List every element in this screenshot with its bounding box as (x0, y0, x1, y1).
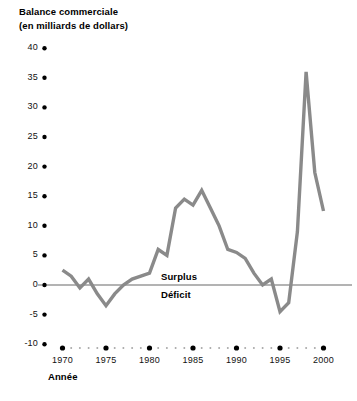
y-axis-tick-label: 0 (12, 279, 38, 289)
surplus-label: Surplus (160, 271, 198, 282)
x-axis-minor-tick-dot (270, 347, 272, 349)
x-axis-minor-tick-dot (218, 347, 220, 349)
x-axis-minor-tick-dot (183, 347, 185, 349)
x-axis-tick-dot (277, 345, 282, 350)
y-axis-tick-label: 10 (12, 220, 38, 230)
x-axis-caption: Année (48, 371, 78, 382)
x-axis-minor-tick-dot (201, 347, 203, 349)
y-axis-tick-dot (42, 194, 46, 198)
y-axis-tick-label: -5 (12, 309, 38, 319)
x-axis-tick-label: 1990 (220, 355, 254, 365)
y-axis-tick-dot (42, 283, 46, 287)
deficit-label: Déficit (160, 289, 192, 300)
x-axis-minor-tick-dot (157, 347, 159, 349)
x-axis-tick-dot (147, 345, 152, 350)
x-axis-minor-tick-dot (166, 347, 168, 349)
x-axis-tick-dot (321, 345, 326, 350)
y-axis-tick-dot (42, 105, 46, 109)
x-axis-minor-tick-dot (79, 347, 81, 349)
x-axis-minor-tick-dot (70, 347, 72, 349)
x-axis-tick-label: 1985 (176, 355, 210, 365)
x-axis-minor-tick-dot (209, 347, 211, 349)
x-axis-minor-tick-dot (96, 347, 98, 349)
x-axis-tick-label: 1980 (133, 355, 167, 365)
x-axis-tick-dot (60, 345, 65, 350)
y-axis-tick-dot (42, 342, 46, 346)
x-axis-minor-tick-dot (175, 347, 177, 349)
x-axis-minor-tick-dot (244, 347, 246, 349)
y-axis-tick-dot (42, 224, 46, 228)
x-axis-tick-dot (234, 345, 239, 350)
x-axis-minor-tick-dot (296, 347, 298, 349)
y-axis-tick-dot (42, 46, 46, 50)
y-axis-tick-label: 40 (12, 42, 38, 52)
x-axis-minor-tick-dot (131, 347, 133, 349)
y-axis-tick-label: 35 (12, 72, 38, 82)
y-axis-tick-dot (42, 76, 46, 80)
x-axis-minor-tick-dot (262, 347, 264, 349)
y-axis-tick-dot (42, 135, 46, 139)
y-axis-tick-label: 30 (12, 101, 38, 111)
x-axis-minor-tick-dot (88, 347, 90, 349)
x-axis-tick-dot (190, 345, 195, 350)
y-axis-tick-label: 5 (12, 249, 38, 259)
x-axis-minor-tick-dot (227, 347, 229, 349)
x-axis-tick-label: 1970 (46, 355, 80, 365)
x-axis-minor-tick-dot (314, 347, 316, 349)
y-axis-tick-label: 15 (12, 190, 38, 200)
y-axis-tick-label: -10 (12, 338, 38, 348)
x-axis-minor-tick-dot (305, 347, 307, 349)
y-axis-tick-dot (42, 253, 46, 257)
chart-container: Balance commerciale (en milliards de dol… (0, 0, 357, 401)
x-axis-tick-label: 2000 (307, 355, 341, 365)
x-axis-minor-tick-dot (288, 347, 290, 349)
x-axis-tick-label: 1975 (89, 355, 123, 365)
y-axis-tick-label: 25 (12, 131, 38, 141)
y-axis-tick-dot (42, 164, 46, 168)
plot-area (0, 0, 357, 401)
x-axis-minor-tick-dot (253, 347, 255, 349)
x-axis-tick-label: 1995 (263, 355, 297, 365)
y-axis-tick-label: 20 (12, 161, 38, 171)
x-axis-tick-dot (103, 345, 108, 350)
x-axis-minor-tick-dot (140, 347, 142, 349)
x-axis-minor-tick-dot (122, 347, 124, 349)
y-axis-tick-dot (42, 312, 46, 316)
x-axis-minor-tick-dot (114, 347, 116, 349)
